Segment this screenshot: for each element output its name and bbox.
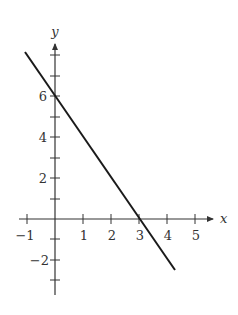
y-tick-label: 6 [39, 89, 47, 104]
x-tick-label: 4 [164, 228, 172, 243]
line-chart: −1 1 2 3 4 5 x 6 4 2 −2 y [0, 0, 238, 315]
x-axis: −1 1 2 3 4 5 x [15, 211, 228, 243]
y-tick-label: −2 [30, 253, 49, 268]
y-axis-label: y [50, 24, 59, 39]
y-tick-label: 2 [39, 171, 47, 186]
x-axis-label: x [220, 211, 228, 226]
x-tick-label: −1 [15, 228, 34, 243]
x-tick-label: 1 [80, 228, 88, 243]
x-tick-label: 3 [136, 228, 144, 243]
y-tick-label: 4 [39, 130, 47, 145]
data-line [25, 52, 175, 270]
x-tick-label: 5 [192, 228, 200, 243]
x-tick-label: 2 [108, 228, 116, 243]
